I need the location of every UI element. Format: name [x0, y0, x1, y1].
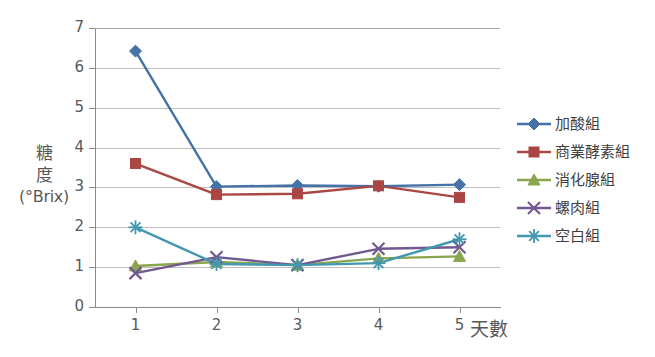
legend-item-3[interactable]: 螺肉組 [516, 194, 652, 222]
legend-marker-triangle-icon [516, 171, 552, 189]
data-point-x [454, 241, 466, 253]
x-axis-tick [217, 307, 218, 313]
data-point-diamond [130, 45, 142, 57]
data-point-square [455, 192, 465, 202]
gridline [95, 227, 500, 228]
x-axis-label: 1 [116, 318, 156, 333]
plot-top-border [95, 28, 500, 29]
data-point-triangle [292, 259, 304, 270]
y-axis-label: 5 [58, 100, 84, 115]
x-axis-label: 3 [278, 318, 318, 333]
y-axis-tick [89, 68, 95, 69]
data-point-triangle [454, 250, 466, 261]
data-point-diamond [373, 180, 385, 192]
legend: 加酸組商業酵素組消化腺組螺肉組空白組 [516, 110, 652, 250]
x-axis-label: 5 [440, 318, 480, 333]
x-axis-label: 4 [359, 318, 399, 333]
y-axis-tick [89, 28, 95, 29]
gridline [95, 108, 500, 109]
y-axis-label: 7 [58, 20, 84, 35]
x-axis-tick [298, 307, 299, 313]
data-point-x [373, 243, 385, 255]
data-point-x [130, 267, 142, 279]
gridline [95, 187, 500, 188]
x-axis-tick [460, 307, 461, 313]
series-空白組 [136, 227, 460, 265]
legend-label: 空白組 [555, 227, 600, 245]
y-axis-label: 6 [58, 60, 84, 75]
legend-marker-diamond-icon [516, 115, 552, 133]
markers-商業酵素組 [131, 159, 465, 203]
gridline [95, 267, 500, 268]
x-axis-tick [136, 307, 137, 313]
data-point-square [131, 159, 141, 169]
y-axis-label: 1 [58, 259, 84, 274]
data-point-diamond [292, 179, 304, 191]
data-point-asterisk [527, 229, 541, 243]
legend-marker-asterisk-icon [516, 227, 552, 245]
legend-item-1[interactable]: 商業酵素組 [516, 138, 652, 166]
y-axis-tick [89, 267, 95, 268]
legend-label: 加酸組 [555, 115, 600, 133]
y-axis-label: 4 [58, 140, 84, 155]
y-axis-label: 3 [58, 179, 84, 194]
series-消化腺組 [136, 256, 460, 266]
legend-item-4[interactable]: 空白組 [516, 222, 652, 250]
x-axis-tick [379, 307, 380, 313]
data-point-diamond [528, 118, 540, 130]
data-point-asterisk [210, 257, 224, 271]
data-point-x [292, 259, 304, 271]
legend-label: 消化腺組 [555, 171, 615, 189]
y-axis-tick [89, 108, 95, 109]
gridline [95, 68, 500, 69]
y-axis-line [95, 28, 96, 308]
y-axis-tick [89, 227, 95, 228]
legend-marker-square-icon [516, 143, 552, 161]
data-point-square [374, 181, 384, 191]
data-point-asterisk [453, 232, 467, 246]
y-axis-tick [89, 307, 95, 308]
data-point-triangle [211, 256, 223, 267]
gridline [95, 148, 500, 149]
legend-marker-x-icon [516, 199, 552, 217]
y-axis-label: 0 [58, 299, 84, 314]
data-point-square [529, 147, 539, 157]
series-加酸組 [136, 51, 460, 187]
y-axis-label: 2 [58, 219, 84, 234]
legend-label: 螺肉組 [555, 199, 600, 217]
legend-item-2[interactable]: 消化腺組 [516, 166, 652, 194]
data-point-square [293, 189, 303, 199]
data-point-square [212, 190, 222, 200]
series-螺肉組 [136, 247, 460, 273]
data-point-asterisk [291, 258, 305, 272]
legend-item-0[interactable]: 加酸組 [516, 110, 652, 138]
data-point-x [211, 251, 223, 263]
x-axis-label: 2 [197, 318, 237, 333]
legend-label: 商業酵素組 [555, 143, 630, 161]
markers-螺肉組 [130, 241, 466, 279]
chart-container: 糖 度 (°Brix) 天數 01234567 12345 加酸組商業酵素組消化… [0, 0, 655, 357]
y-axis-tick [89, 187, 95, 188]
data-point-diamond [454, 179, 466, 191]
data-point-triangle [130, 260, 142, 271]
y-axis-tick [89, 148, 95, 149]
series-商業酵素組 [136, 164, 460, 198]
data-point-triangle [373, 252, 385, 263]
